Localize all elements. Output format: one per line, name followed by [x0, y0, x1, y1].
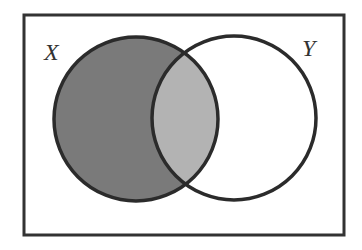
set-x-label: X	[43, 39, 60, 65]
venn-diagram: X Y	[0, 0, 362, 250]
